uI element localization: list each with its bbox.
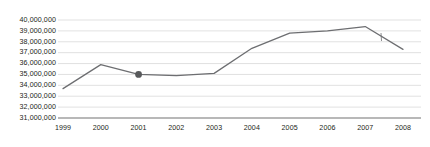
x-axis-tick-label: 1999: [43, 124, 83, 132]
annotation-tick: [381, 33, 382, 41]
y-axis-tick-label: 33,000,000: [0, 92, 56, 100]
x-axis-tick-label: 2004: [232, 124, 272, 132]
y-axis-tick-label: 31,000,000: [0, 114, 56, 122]
x-axis-tick-label: 2002: [156, 124, 196, 132]
y-axis-tick-label: 37,000,000: [0, 48, 56, 56]
x-axis-tick-label: 2006: [307, 124, 347, 132]
data-markers: [135, 71, 142, 78]
x-axis-tick-label: 2001: [119, 124, 159, 132]
y-axis-tick-label: 35,000,000: [0, 70, 56, 78]
gridlines: [58, 20, 421, 118]
x-axis-tick-label: 2000: [81, 124, 121, 132]
y-axis-tick-label: 38,000,000: [0, 38, 56, 46]
x-axis-tick-label: 2005: [270, 124, 310, 132]
y-axis-tick-label: 34,000,000: [0, 81, 56, 89]
y-axis-tick-label: 36,000,000: [0, 59, 56, 67]
y-axis-tick-label: 32,000,000: [0, 103, 56, 111]
x-axis-tick-label: 2008: [383, 124, 423, 132]
y-axis-tick-label: 40,000,000: [0, 16, 56, 24]
line-chart: 40,000,00039,000,00038,000,00037,000,000…: [0, 0, 430, 147]
x-axis-tick-label: 2003: [194, 124, 234, 132]
data-line: [63, 27, 403, 89]
x-axis-tick-label: 2007: [345, 124, 385, 132]
y-axis-tick-label: 39,000,000: [0, 27, 56, 35]
